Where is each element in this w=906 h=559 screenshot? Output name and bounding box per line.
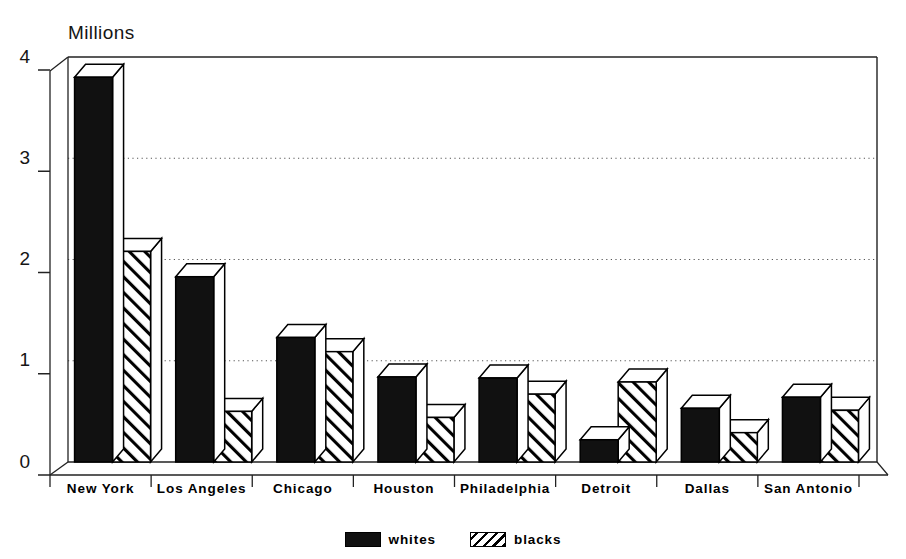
x-tick-label-houston: Houston [373, 481, 434, 496]
bar-detroit-whites [580, 427, 629, 462]
bar-series-group [75, 64, 870, 462]
diagonal-hatch-swatch-icon [470, 532, 506, 547]
x-tick-label-detroit: Detroit [581, 481, 631, 496]
bar-chart: Millions 0 1 2 3 4 [0, 0, 906, 559]
bar-philadelphia-whites [479, 365, 528, 462]
plot-area [0, 0, 906, 559]
x-tick-label-dallas: Dallas [685, 481, 730, 496]
x-tick-label-new-york: New York [67, 481, 134, 496]
chart-legend: whites blacks [0, 532, 906, 547]
x-tick-label-los-angeles: Los Angeles [157, 481, 247, 496]
bar-los-angeles-whites [176, 264, 225, 462]
legend-label-whites: whites [389, 532, 436, 547]
bar-san-antonio-whites [782, 384, 831, 462]
solid-black-swatch-icon [345, 532, 381, 547]
bar-dallas-whites [681, 395, 730, 462]
legend-entry-blacks: blacks [470, 532, 561, 547]
x-tick-label-philadelphia: Philadelphia [460, 481, 550, 496]
y-axis-ticks [38, 70, 50, 475]
bar-new-york-whites [75, 64, 124, 462]
x-tick-label-san-antonio: San Antonio [764, 481, 853, 496]
x-tick-label-chicago: Chicago [273, 481, 333, 496]
legend-entry-whites: whites [345, 532, 436, 547]
bar-houston-whites [378, 364, 427, 462]
legend-label-blacks: blacks [514, 532, 561, 547]
bar-chicago-whites [277, 324, 326, 462]
